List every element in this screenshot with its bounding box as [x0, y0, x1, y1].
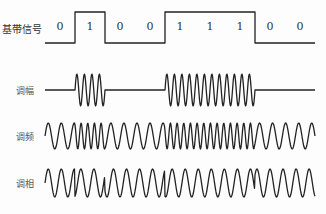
modulation-diagram: 基带信号 调幅 调频 调相 010011100: [0, 0, 326, 214]
waveforms: [0, 0, 326, 214]
fm-waveform: [45, 123, 315, 149]
baseband-waveform: [45, 12, 315, 43]
am-waveform: [45, 74, 315, 106]
pm-waveform: [45, 169, 315, 197]
